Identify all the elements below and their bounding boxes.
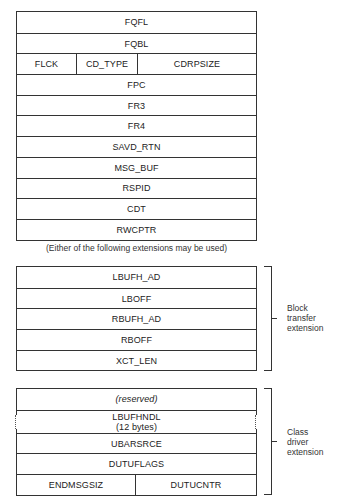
field-row-rspid: RSPID (17, 178, 256, 199)
field-row-rbufh-ad: RBUFH_AD (17, 308, 256, 329)
block-transfer-extension-block: LBUFH_AD LBOFF RBUFH_AD RBOFF XCT_LEN (16, 266, 257, 371)
field-ubarsrce: UBARSRCE (17, 434, 256, 454)
class-driver-bracket-tick (271, 441, 277, 442)
field-row-xct-len: XCT_LEN (17, 350, 256, 371)
field-savd-rtn: SAVD_RTN (17, 137, 256, 157)
field-row-rwcptr: RWCPTR (17, 219, 256, 240)
field-row-fr4: FR4 (17, 115, 256, 136)
field-rspid: RSPID (17, 179, 256, 199)
field-fqbl: FQBL (17, 34, 256, 54)
field-cdrpsize: CDRPSIZE (137, 54, 256, 74)
field-row-ubarsrce: UBARSRCE (17, 433, 256, 454)
field-dutuflags: DUTUFLAGS (17, 454, 256, 474)
field-row-msg-buf: MSG_BUF (17, 157, 256, 178)
continuation-dots-right (255, 415, 259, 429)
field-cd-type: CD_TYPE (76, 54, 137, 74)
field-row-dutuflags: DUTUFLAGS (17, 453, 256, 474)
field-row-savd-rtn: SAVD_RTN (17, 136, 256, 157)
class-driver-extension-block: (reserved) LBUFHNDL (12 bytes) UBARSRCE … (16, 388, 257, 496)
field-lbufh-ad: LBUFH_AD (17, 267, 256, 288)
field-row-endmsgsiz-dutucntr: ENDMSGSIZ DUTUCNTR (17, 474, 256, 495)
field-row-fpc: FPC (17, 74, 256, 95)
field-cdt: CDT (17, 199, 256, 219)
field-row-reserved: (reserved) (17, 389, 256, 410)
field-row-flck-cdtype-cdrpsize: FLCK CD_TYPE CDRPSIZE (17, 53, 256, 74)
field-fqfl: FQFL (17, 12, 256, 33)
continuation-dots-left (15, 415, 19, 429)
extensions-caption: (Either of the following extensions may … (16, 243, 257, 253)
field-fpc: FPC (17, 75, 256, 95)
field-endmsgsiz: ENDMSGSIZ (17, 475, 135, 495)
field-row-cdt: CDT (17, 198, 256, 219)
block-transfer-extension-label: Block transfer extension (287, 303, 323, 333)
field-row-fr3: FR3 (17, 95, 256, 116)
field-msg-buf: MSG_BUF (17, 158, 256, 178)
field-lboff: LBOFF (17, 289, 256, 309)
field-row-fqbl: FQBL (17, 33, 256, 54)
field-reserved: (reserved) (17, 389, 256, 410)
field-rwcptr: RWCPTR (17, 220, 256, 240)
field-lbufhndl: LBUFHNDL (12 bytes) (17, 411, 256, 433)
field-xct-len: XCT_LEN (17, 351, 256, 371)
main-structure-block: FQFL FQBL FLCK CD_TYPE CDRPSIZE FPC FR3 … (16, 11, 257, 241)
field-rbufh-ad: RBUFH_AD (17, 309, 256, 329)
field-rboff: RBOFF (17, 330, 256, 350)
field-dutucntr: DUTUCNTR (135, 475, 256, 495)
field-fr3: FR3 (17, 96, 256, 116)
field-fr4: FR4 (17, 116, 256, 136)
field-flck: FLCK (17, 54, 76, 74)
block-transfer-bracket-tick (271, 318, 277, 319)
field-row-fqfl: FQFL (17, 12, 256, 33)
field-row-lbufh-ad: LBUFH_AD (17, 267, 256, 288)
class-driver-extension-label: Class driver extension (287, 427, 323, 457)
field-row-lbufhndl: LBUFHNDL (12 bytes) (17, 410, 256, 433)
field-row-rboff: RBOFF (17, 329, 256, 350)
field-row-lboff: LBOFF (17, 288, 256, 309)
